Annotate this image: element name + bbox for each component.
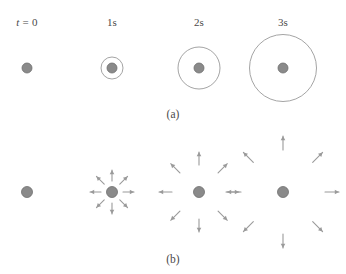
arrow-head (110, 210, 115, 214)
arrow-head (335, 190, 339, 195)
field-arrow (171, 164, 180, 173)
panel-a-column-1 (101, 57, 123, 79)
field-arrow (218, 164, 227, 173)
field-arrow (313, 152, 323, 162)
time-label-2: 2s (194, 16, 204, 28)
time-label-value: 2s (194, 16, 204, 28)
panel-a-column-0 (22, 63, 32, 73)
arrow-head (110, 170, 115, 174)
source-dot (107, 63, 117, 73)
source-dot (194, 63, 204, 73)
source-dot (278, 187, 289, 198)
physics-figure: t = 01s2s3s(a)(b) (0, 0, 346, 274)
source-dot (22, 63, 32, 73)
field-arrow (110, 170, 115, 181)
field-arrow (120, 200, 128, 208)
time-label-3: 3s (278, 16, 288, 28)
field-arrow (96, 200, 104, 208)
source-dot (107, 187, 118, 198)
field-arrow (218, 211, 227, 220)
field-arrow (325, 190, 339, 195)
field-arrow (197, 152, 202, 165)
arrow-head (90, 190, 94, 195)
field-arrow (110, 203, 115, 214)
arrow-head (197, 152, 202, 156)
panel-a (22, 35, 317, 102)
panel-b-column-0 (22, 187, 33, 198)
source-dot (194, 187, 205, 198)
source-dot (22, 187, 33, 198)
field-arrow (171, 211, 180, 220)
panel-b (22, 136, 340, 248)
arrow-head (130, 190, 134, 195)
field-arrow (159, 190, 172, 195)
field-arrow (243, 222, 253, 232)
figure-canvas (0, 0, 346, 274)
time-label-value: 1s (107, 16, 117, 28)
time-label-1: 1s (107, 16, 117, 28)
arrow-head (227, 190, 231, 195)
time-label-value: 3s (278, 16, 288, 28)
field-arrow (243, 152, 253, 162)
field-arrow (281, 136, 286, 150)
panel-a-caption: (a) (167, 108, 180, 120)
panel-a-column-2 (178, 47, 220, 89)
field-arrow (90, 190, 101, 195)
field-arrow (197, 219, 202, 232)
panel-b-caption: (b) (166, 253, 179, 265)
field-arrow (96, 176, 104, 184)
arrow-head (281, 136, 286, 140)
arrow-head (197, 228, 202, 232)
field-arrow (313, 222, 323, 232)
field-arrow (123, 190, 134, 195)
panel-b-column-3 (227, 136, 339, 248)
time-label-value: = 0 (20, 16, 38, 28)
field-arrow (120, 176, 128, 184)
arrow-head (281, 244, 286, 248)
source-dot (278, 63, 288, 73)
field-arrow (281, 234, 286, 248)
time-label-0: t = 0 (16, 16, 37, 28)
field-arrow (227, 190, 241, 195)
panel-a-column-3 (250, 35, 317, 102)
panel-b-column-1 (90, 170, 134, 214)
arrow-head (159, 190, 163, 195)
